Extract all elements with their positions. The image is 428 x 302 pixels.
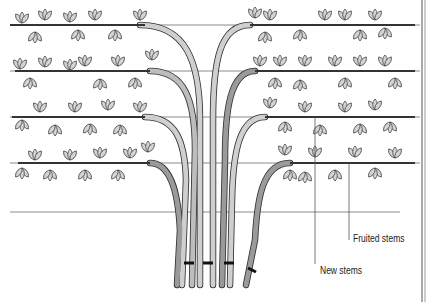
new-stems-label: New stems — [320, 265, 362, 276]
cane-training-illustration — [0, 0, 428, 302]
fruited-stems-label: Fruited stems — [353, 233, 404, 244]
foliage — [12, 7, 403, 183]
